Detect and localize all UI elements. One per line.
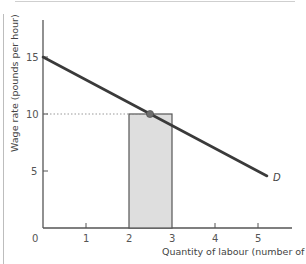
y-tick-label-5: 5 bbox=[31, 166, 37, 177]
x-tick-label-1: 1 bbox=[83, 233, 89, 244]
x-tick-label-0: 0 bbox=[32, 233, 38, 244]
x-tick-label-3: 3 bbox=[169, 233, 175, 244]
y-axis-title: Wage rate (pounds per hour) bbox=[9, 14, 20, 152]
shaded-rectangle bbox=[129, 114, 172, 228]
chart: 15 10 5 0 1 2 3 4 5 Quantity of labour (… bbox=[0, 0, 306, 264]
x-tick-label-5: 5 bbox=[255, 233, 261, 244]
x-tick-label-2: 2 bbox=[126, 233, 132, 244]
equilibrium-point bbox=[146, 110, 153, 117]
demand-curve-label: D bbox=[273, 172, 281, 183]
x-axis-title: Quantity of labour (number of workers) bbox=[162, 246, 306, 257]
x-tick-label-4: 4 bbox=[212, 233, 218, 244]
y-tick-label-10: 10 bbox=[26, 109, 39, 120]
y-tick-label-15: 15 bbox=[26, 52, 39, 63]
